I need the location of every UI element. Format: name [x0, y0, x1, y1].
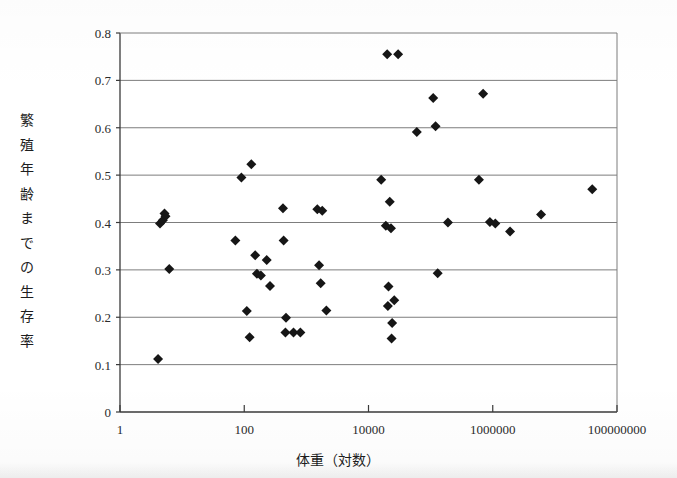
data-points [153, 49, 597, 364]
y-axis-title-char: ま [20, 210, 34, 226]
x-axis-ticks [120, 405, 617, 412]
data-point [295, 327, 305, 337]
data-point [382, 49, 392, 59]
data-point [314, 260, 324, 270]
x-axis-tick-labels: 1100100001000000100000000 [117, 422, 647, 437]
y-axis-title: 繁殖年齢までの生存率 [20, 112, 34, 349]
data-point [536, 209, 546, 219]
data-point [279, 236, 289, 246]
data-point [389, 295, 399, 305]
data-point [505, 227, 515, 237]
y-tick-label: 0.4 [95, 216, 112, 231]
data-point [246, 159, 256, 169]
y-tick-label: 0.7 [95, 73, 112, 88]
data-point [385, 197, 395, 207]
y-axis-title-char: で [20, 235, 34, 251]
y-tick-label: 0.2 [95, 310, 111, 325]
data-point [428, 93, 438, 103]
data-point [412, 127, 422, 137]
x-axis-title: 体重（対数） [296, 452, 380, 468]
data-point [478, 89, 488, 99]
data-point [321, 306, 331, 316]
data-point [262, 255, 272, 265]
data-point [245, 332, 255, 342]
x-tick-label: 10000 [352, 422, 385, 437]
y-tick-label: 0.6 [95, 121, 112, 136]
data-point [393, 49, 403, 59]
data-point [474, 175, 484, 185]
y-tick-label: 0.8 [95, 26, 111, 41]
data-point [387, 318, 397, 328]
data-point [281, 313, 291, 323]
data-point [384, 281, 394, 291]
y-tick-label: 0.5 [95, 168, 111, 183]
data-point [443, 218, 453, 228]
y-axis-tick-labels: 00.10.20.30.40.50.60.70.8 [95, 26, 120, 420]
data-point [230, 236, 240, 246]
y-axis-title-char: の [20, 259, 34, 275]
y-tick-label: 0.3 [95, 263, 111, 278]
data-point [587, 184, 597, 194]
scatter-chart: 1100100001000000100000000 00.10.20.30.40… [0, 0, 677, 478]
y-tick-label: 0 [105, 405, 112, 420]
data-point [250, 250, 260, 260]
x-tick-label: 100000000 [588, 422, 647, 437]
data-point [383, 301, 393, 311]
y-axis-title-char: 齢 [20, 186, 34, 202]
data-point [164, 264, 174, 274]
gridlines [120, 80, 617, 364]
x-tick-label: 1 [117, 422, 124, 437]
data-point [265, 281, 275, 291]
plot-canvas: 1100100001000000100000000 00.10.20.30.40… [0, 0, 677, 478]
data-point [316, 278, 326, 288]
y-axis-title-char: 繁 [20, 112, 34, 128]
data-point [278, 203, 288, 213]
y-axis-title-char: 存 [20, 308, 34, 324]
data-point [153, 354, 163, 364]
data-point [387, 334, 397, 344]
y-axis-title-char: 率 [20, 333, 34, 349]
data-point [236, 172, 246, 182]
data-point [376, 175, 386, 185]
y-tick-label: 0.1 [95, 358, 111, 373]
y-axis-title-char: 年 [20, 161, 34, 177]
x-tick-label: 1000000 [470, 422, 516, 437]
data-point [431, 121, 441, 131]
data-point [242, 306, 252, 316]
y-axis-title-char: 殖 [20, 137, 34, 153]
x-tick-label: 100 [235, 422, 255, 437]
y-axis-title-char: 生 [20, 284, 34, 300]
